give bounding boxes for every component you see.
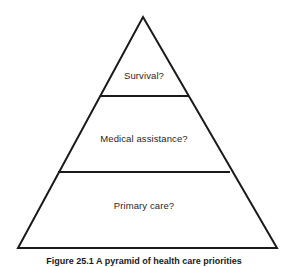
tier-label-medical-assistance: Medical assistance?	[0, 133, 288, 144]
tier-label-primary-care: Primary care?	[0, 200, 288, 211]
figure-caption: Figure 25.1 A pyramid of health care pri…	[0, 256, 288, 267]
tier-label-survival: Survival?	[0, 70, 288, 81]
